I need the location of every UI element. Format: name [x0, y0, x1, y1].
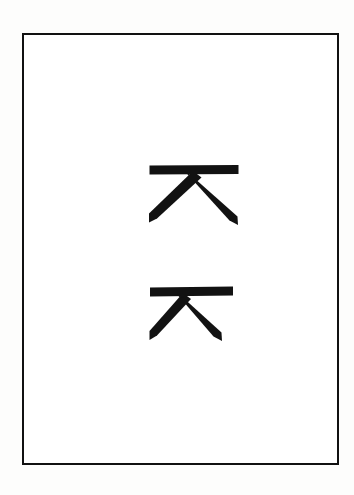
glyph-lower-top-bar: [150, 287, 233, 297]
glyph-jieut-upper: [140, 158, 246, 232]
glyph-lower-right-diagonal: [176, 293, 222, 341]
page-border: [22, 33, 339, 465]
figure-page: [0, 0, 354, 495]
glyph-jieut-lower: [140, 282, 246, 348]
glyph-upper-right-diagonal: [185, 171, 239, 225]
